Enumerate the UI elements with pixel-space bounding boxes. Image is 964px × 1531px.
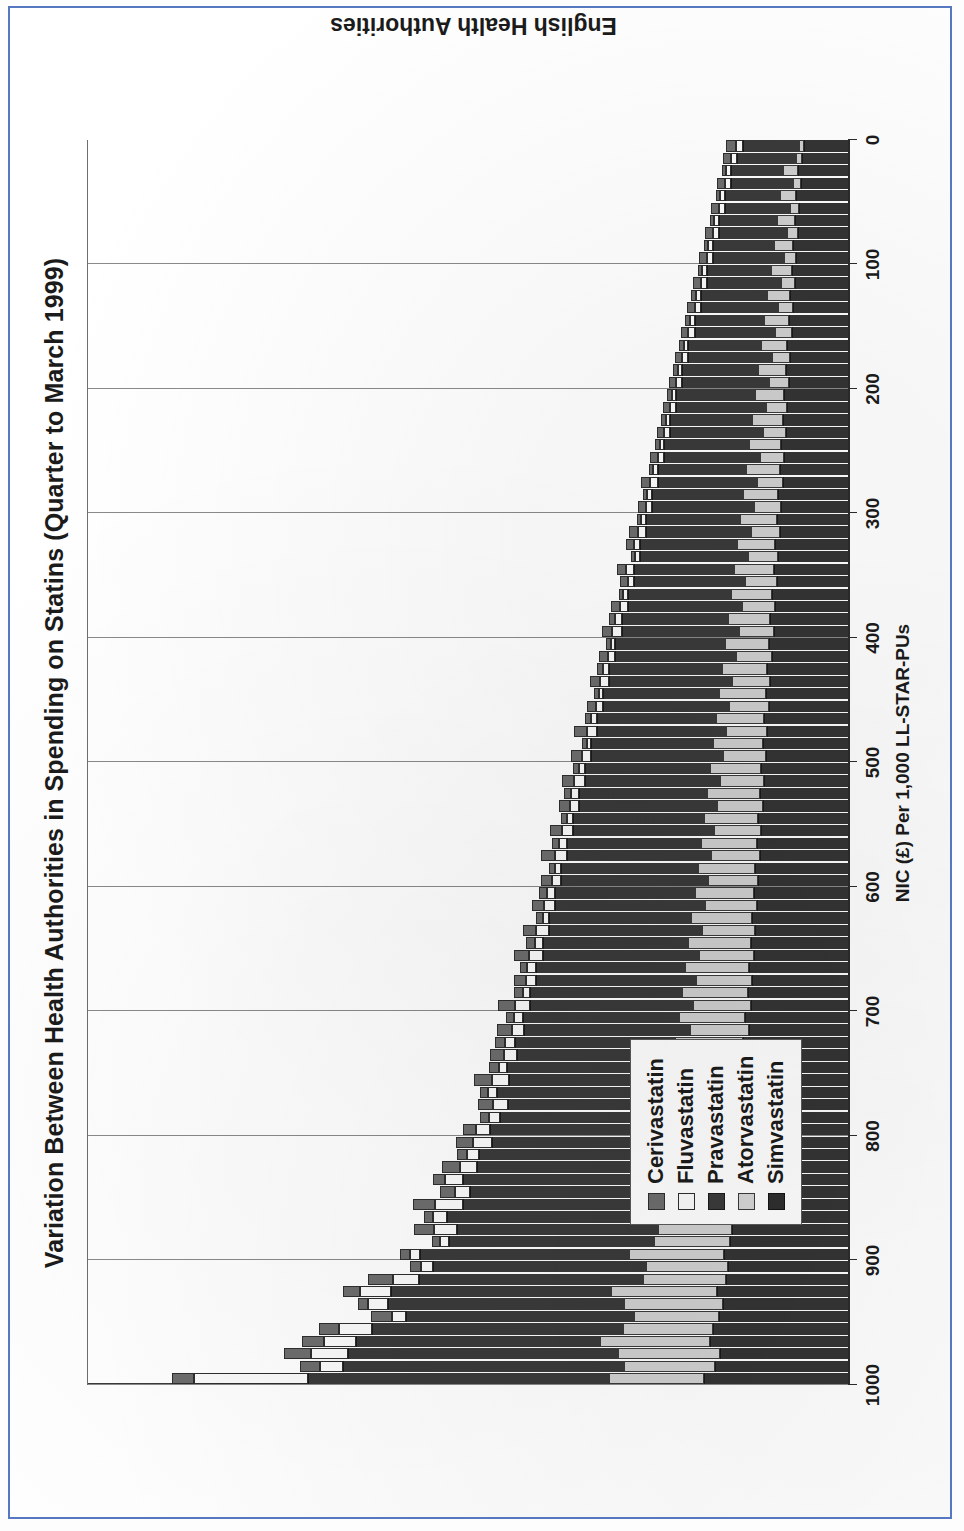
bar-column — [88, 1285, 848, 1297]
bar-column — [88, 500, 848, 512]
bar-segment-pravastatin — [731, 177, 793, 188]
bar-segment-pravastatin — [555, 899, 705, 910]
axis-tick-label: 1000 — [862, 1350, 884, 1420]
bar-column — [88, 189, 848, 201]
bar-segment-simvastatin — [758, 875, 848, 886]
bar-segment-pravastatin — [731, 165, 783, 176]
bar-segment-pravastatin — [646, 513, 740, 524]
bar-segment-cerivastatin — [440, 1186, 455, 1197]
bar-segment-fluvastatin — [570, 800, 579, 811]
bar-segment-cerivastatin — [687, 302, 695, 313]
bar-segment-simvastatin — [757, 899, 848, 910]
bar-segment-atorvastatin — [760, 451, 784, 462]
bar-segment-cerivastatin — [497, 1024, 512, 1035]
bar-segment-atorvastatin — [643, 1273, 727, 1284]
bar-segment-atorvastatin — [708, 875, 758, 886]
bar-segment-simvastatin — [723, 1298, 848, 1309]
bar-segment-atorvastatin — [702, 924, 755, 935]
bar-segment-pravastatin — [597, 713, 716, 724]
bar-segment-fluvastatin — [473, 1136, 493, 1147]
bar-segment-fluvastatin — [559, 837, 567, 848]
bar-column — [88, 550, 848, 562]
bar-column — [88, 650, 848, 662]
bar-segment-cerivastatin — [611, 601, 620, 612]
bar-segment-cerivastatin — [669, 376, 677, 387]
bar-segment-atorvastatin — [769, 376, 789, 387]
bar-segment-simvastatin — [749, 1024, 848, 1035]
bar-segment-pravastatin — [549, 912, 692, 923]
bar-segment-pravastatin — [603, 688, 719, 699]
axis-tick-label: 500 — [862, 727, 884, 797]
bar-column — [88, 1310, 848, 1322]
bar-segment-atorvastatin — [749, 439, 781, 450]
bar-segment-atorvastatin — [729, 700, 769, 711]
bar-segment-pravastatin — [725, 190, 780, 201]
bar-segment-cerivastatin — [424, 1211, 433, 1222]
bar-segment-cerivastatin — [574, 725, 586, 736]
bar-segment-fluvastatin — [460, 1161, 477, 1172]
bar-segment-atorvastatin — [740, 513, 776, 524]
bar-segment-pravastatin — [549, 924, 703, 935]
bar-segment-simvastatin — [786, 364, 848, 375]
bar-segment-cerivastatin — [514, 949, 529, 960]
bar-column — [88, 936, 848, 948]
bar-segment-cerivastatin — [474, 1074, 492, 1085]
bar-segment-simvastatin — [724, 1248, 848, 1259]
bar-segment-atorvastatin — [746, 464, 779, 475]
bar-column — [88, 637, 848, 649]
bar-segment-cerivastatin — [413, 1198, 434, 1209]
bar-segment-atorvastatin — [784, 252, 796, 263]
axis-tick — [848, 886, 857, 887]
bar-segment-simvastatin — [760, 850, 848, 861]
bar-segment-cerivastatin — [532, 899, 544, 910]
bar-segment-fluvastatin — [536, 924, 548, 935]
bar-column — [88, 201, 848, 213]
bar-segment-cerivastatin — [587, 700, 596, 711]
bar-segment-atorvastatin — [766, 401, 787, 412]
bar-segment-simvastatin — [755, 924, 848, 935]
bar-segment-simvastatin — [715, 1360, 848, 1371]
bar-segment-fluvastatin — [489, 1111, 500, 1122]
bar-segment-fluvastatin — [562, 825, 573, 836]
bar-column — [88, 737, 848, 749]
bar-segment-atorvastatin — [713, 738, 763, 749]
bar-segment-pravastatin — [343, 1360, 624, 1371]
bar-column — [88, 226, 848, 238]
bar-segment-pravastatin — [664, 439, 749, 450]
bar-segment-atorvastatin — [701, 837, 757, 848]
bar-segment-simvastatin — [761, 825, 848, 836]
x-axis-title: English Health Authorities — [324, 11, 624, 38]
bar-column — [88, 164, 848, 176]
bar-segment-pravastatin — [536, 962, 685, 973]
bar-segment-atorvastatin — [699, 949, 754, 960]
bar-column — [88, 276, 848, 288]
bar-segment-fluvastatin — [555, 850, 567, 861]
bar-segment-pravastatin — [676, 389, 755, 400]
bar-column — [88, 998, 848, 1010]
bar-segment-cerivastatin — [626, 538, 634, 549]
axis-tick-label: 100 — [862, 229, 884, 299]
bar-column — [88, 525, 848, 537]
bar-segment-fluvastatin — [339, 1323, 372, 1334]
bar-segment-pravastatin — [713, 252, 784, 263]
bar-column — [88, 563, 848, 575]
bar-column — [88, 1260, 848, 1272]
bar-segment-fluvastatin — [582, 750, 591, 761]
bar-segment-cerivastatin — [599, 650, 608, 661]
bar-segment-atorvastatin — [696, 974, 752, 985]
axis-tick-label: 300 — [862, 478, 884, 548]
bar-segment-cerivastatin — [498, 999, 515, 1010]
bar-column — [88, 475, 848, 487]
bar-column — [88, 314, 848, 326]
bar-segment-cerivastatin — [571, 750, 582, 761]
bar-segment-fluvastatin — [547, 887, 555, 898]
bar-column — [88, 177, 848, 189]
bar-segment-pravastatin — [695, 314, 765, 325]
bar-segment-pravastatin — [634, 563, 734, 574]
bar-column — [88, 911, 848, 923]
bar-segment-fluvastatin — [360, 1285, 390, 1296]
bar-segment-pravastatin — [348, 1348, 618, 1359]
bar-segment-fluvastatin — [608, 650, 616, 661]
bar-segment-pravastatin — [670, 414, 752, 425]
bar-segment-cerivastatin — [400, 1248, 409, 1259]
